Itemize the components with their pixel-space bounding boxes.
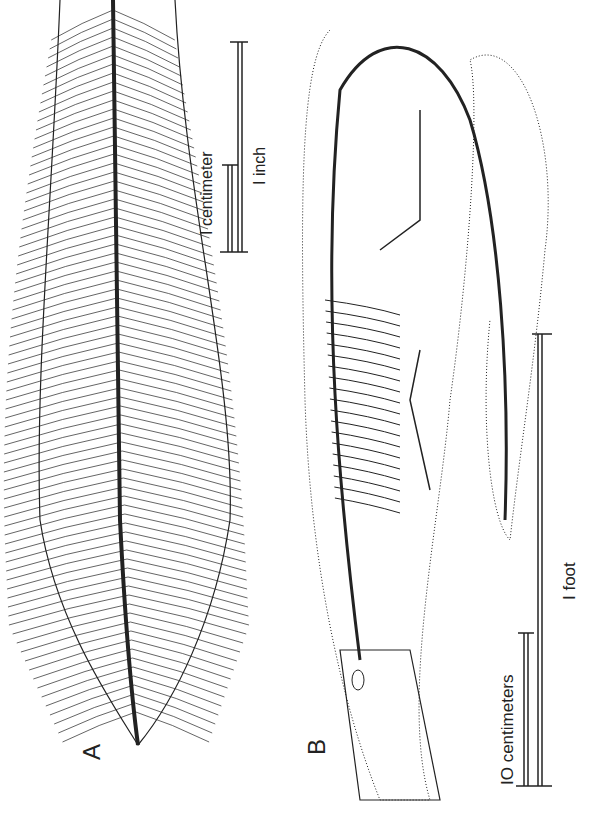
panel-b-scale-bars	[516, 334, 552, 786]
panel-a-leaf	[4, 0, 249, 745]
panel-b-label: B	[303, 739, 330, 755]
figure-canvas: A I centimeter I inch B IO centimeters I…	[0, 0, 600, 828]
scale-label-inch: I inch	[251, 147, 268, 185]
panel-a-scale-bars	[220, 42, 248, 252]
panel-a-label: A	[78, 744, 105, 760]
scale-label-centimeter: I centimeter	[198, 151, 215, 235]
scale-label-10-centimeters: IO centimeters	[498, 674, 517, 785]
scale-label-foot: I foot	[560, 562, 579, 600]
